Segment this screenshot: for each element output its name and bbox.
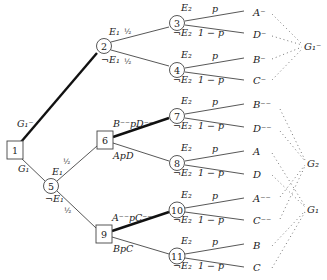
leaf-labels: A⁻ D⁻ B⁻ C⁻ B⁻⁻ D⁻⁻ A D A⁻⁻ C⁻⁻ B C xyxy=(252,7,272,273)
label-n5-not-e1: ¬E₁ xyxy=(45,193,64,204)
label-n2-e1: E₁ xyxy=(108,26,120,37)
label-n2-e1-prob: ½ xyxy=(124,27,131,36)
leaf-c-minus: C⁻ xyxy=(253,75,266,86)
svg-text:¬E₂: ¬E₂ xyxy=(173,214,192,225)
svg-text:¬E₂: ¬E₂ xyxy=(173,120,192,131)
leaf-b: B xyxy=(252,240,260,251)
node-1: 1 xyxy=(7,141,23,159)
node-9-label: 9 xyxy=(101,229,107,240)
label-n6-up: B⁻⁻pD⁻⁻ xyxy=(112,118,154,129)
leaf-d-minus: D⁻ xyxy=(252,29,266,40)
label-n9-down: BpC xyxy=(112,243,134,254)
node-5-label: 5 xyxy=(48,181,54,192)
node-1-label: 1 xyxy=(12,145,18,156)
svg-text:1 − p: 1 − p xyxy=(198,260,224,271)
svg-text:p: p xyxy=(212,143,218,154)
label-n9-up: A⁻⁻pC⁻⁻ xyxy=(111,212,152,223)
node-6: 6 xyxy=(97,131,113,149)
leaf-b-minus: B⁻ xyxy=(252,54,266,65)
leaf-a-minus: A⁻ xyxy=(252,7,266,18)
node-6-label: 6 xyxy=(102,135,108,146)
group-g1-minus: G₁⁻ xyxy=(304,41,321,52)
group-g2: G₂ xyxy=(307,158,319,169)
label-n2-not-e1: ¬E₁ xyxy=(101,54,120,65)
node-2: 2 xyxy=(97,39,112,54)
svg-text:¬E₂: ¬E₂ xyxy=(173,167,192,178)
decision-tree-diagram: 1 2 3 4 5 6 7 8 9 10 11 G₁⁻ G₁ E₁ xyxy=(0,0,327,280)
group-g1: G₁ xyxy=(307,204,319,215)
leaf-b-minus-minus: B⁻⁻ xyxy=(252,99,271,110)
svg-text:¬E₂: ¬E₂ xyxy=(173,260,192,271)
svg-text:1 − p: 1 − p xyxy=(198,74,224,85)
node-2-label: 2 xyxy=(101,41,107,52)
svg-text:p: p xyxy=(212,190,218,201)
leaf-c: C xyxy=(253,262,261,273)
label-n5-e1-prob: ½ xyxy=(63,157,70,166)
svg-text:¬E₂: ¬E₂ xyxy=(173,27,192,38)
label-g1: G₁ xyxy=(18,163,29,174)
label-n2-not-e1-prob: ½ xyxy=(124,57,131,66)
leaf-c-minus-minus: C⁻⁻ xyxy=(253,215,271,226)
svg-text:1 − p: 1 − p xyxy=(198,214,224,225)
node-9: 9 xyxy=(96,225,112,243)
svg-text:p: p xyxy=(212,96,218,107)
svg-text:1 − p: 1 − p xyxy=(198,167,224,178)
svg-text:p: p xyxy=(212,3,218,14)
svg-text:1 − p: 1 − p xyxy=(198,120,224,131)
leaf-d: D xyxy=(252,169,261,180)
node-5: 5 xyxy=(44,179,59,194)
label-n5-not-e1-prob: ½ xyxy=(64,206,71,215)
label-n5-e1: E₁ xyxy=(51,166,63,177)
svg-text:E₂: E₂ xyxy=(180,49,192,60)
e2-labels: E₂ p ¬E₂ 1 − p E₂ p ¬E₂ 1 − p E₂ p ¬E₂ 1… xyxy=(173,2,224,271)
svg-text:p: p xyxy=(212,236,218,247)
svg-text:E₂: E₂ xyxy=(180,142,192,153)
leaf-a-minus-minus: A⁻⁻ xyxy=(252,193,271,204)
svg-text:E₂: E₂ xyxy=(180,235,192,246)
svg-text:p: p xyxy=(212,50,218,61)
leaf-a: A xyxy=(252,146,260,157)
svg-text:1 − p: 1 − p xyxy=(198,27,224,38)
label-g1-minus: G₁⁻ xyxy=(17,118,33,129)
group-connectors xyxy=(272,14,305,268)
svg-text:E₂: E₂ xyxy=(180,189,192,200)
svg-text:E₂: E₂ xyxy=(180,95,192,106)
label-n6-down: ApD xyxy=(112,150,134,161)
leaf-d-minus-minus: D⁻⁻ xyxy=(252,123,272,134)
svg-text:E₂: E₂ xyxy=(180,2,192,13)
svg-text:¬E₂: ¬E₂ xyxy=(173,74,192,85)
